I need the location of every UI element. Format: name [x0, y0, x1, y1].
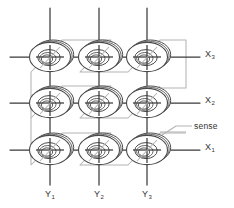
label-y3-sub: 3 [149, 194, 153, 200]
label-sense: sense [194, 121, 218, 131]
label-x1-text: X [205, 142, 211, 152]
label-y2: Y2 [94, 189, 104, 200]
core-memory-figure: X3 X2 X1 sense Y1 Y2 Y3 [0, 0, 234, 208]
label-y1-text: Y [45, 189, 51, 199]
label-x3: X3 [205, 49, 215, 60]
label-x1-sub: 1 [212, 147, 216, 153]
label-x2-sub: 2 [212, 100, 216, 106]
label-y2-sub: 2 [101, 194, 105, 200]
label-x3-sub: 3 [212, 54, 216, 60]
label-x1: X1 [205, 142, 215, 153]
label-x2-text: X [205, 95, 211, 105]
core-memory-diagram [0, 0, 234, 208]
label-y1-sub: 1 [52, 194, 56, 200]
label-y2-text: Y [94, 189, 100, 199]
label-y3-text: Y [142, 189, 148, 199]
label-y1: Y1 [45, 189, 55, 200]
label-y3: Y3 [142, 189, 152, 200]
label-x3-text: X [205, 49, 211, 59]
label-x2: X2 [205, 95, 215, 106]
